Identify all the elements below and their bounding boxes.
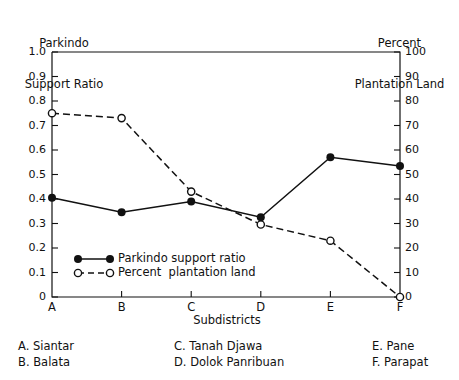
left-tick-label-2: 0.9 bbox=[16, 70, 46, 83]
x-tick-label-b: B bbox=[112, 300, 132, 314]
right-tick-label-3: 80 bbox=[405, 94, 439, 107]
x-tick-label-e: E bbox=[320, 300, 340, 314]
legend-marker-parkindo bbox=[74, 255, 114, 263]
x-tick-label-a: A bbox=[42, 300, 62, 314]
left-axis-ticks bbox=[52, 52, 58, 297]
right-tick-label-6: 50 bbox=[405, 168, 439, 181]
left-tick-label-8: 0.3 bbox=[16, 217, 46, 230]
right-tick-label-11: 0 bbox=[405, 290, 439, 303]
legend-marker-plantation bbox=[74, 269, 113, 276]
x-tick-label-f: F bbox=[390, 300, 410, 314]
left-tick-label-6: 0.5 bbox=[16, 168, 46, 181]
left-tick-label-10: 0.1 bbox=[16, 266, 46, 279]
x-axis-ticks bbox=[122, 291, 331, 297]
left-tick-label-5: 0.6 bbox=[16, 143, 46, 156]
footnote-d: D. Dolok Panribuan bbox=[174, 356, 284, 370]
right-tick-label-8: 30 bbox=[405, 217, 439, 230]
legend-label-parkindo: Parkindo support ratio bbox=[118, 252, 246, 266]
right-tick-label-9: 20 bbox=[405, 241, 439, 254]
right-tick-label-7: 40 bbox=[405, 192, 439, 205]
left-tick-label-7: 0.4 bbox=[16, 192, 46, 205]
legend-label-plantation: Percent plantation land bbox=[118, 266, 255, 280]
right-tick-label-10: 10 bbox=[405, 266, 439, 279]
footnote-a: A. Siantar bbox=[18, 340, 74, 354]
footnote-b: B. Balata bbox=[18, 356, 70, 370]
x-axis-title: Subdistricts bbox=[152, 314, 302, 328]
left-tick-label-9: 0.2 bbox=[16, 241, 46, 254]
footnote-e: E. Pane bbox=[372, 340, 414, 354]
chart-figure: Parkindo Support Ratio Percent Plantatio… bbox=[0, 0, 459, 380]
right-tick-label-5: 60 bbox=[405, 143, 439, 156]
x-tick-label-c: C bbox=[181, 300, 201, 314]
right-tick-label-1: 100 bbox=[405, 45, 439, 58]
right-tick-label-2: 90 bbox=[405, 70, 439, 83]
left-tick-label-1: 1.0 bbox=[16, 45, 46, 58]
left-tick-label-3: 0.8 bbox=[16, 94, 46, 107]
left-tick-label-4: 0.7 bbox=[16, 119, 46, 132]
right-tick-label-4: 70 bbox=[405, 119, 439, 132]
footnote-c: C. Tanah Djawa bbox=[174, 340, 262, 354]
right-axis-ticks bbox=[394, 52, 400, 297]
footnote-f: F. Parapat bbox=[372, 356, 428, 370]
x-tick-label-d: D bbox=[251, 300, 271, 314]
series-parkindo-support-ratio-markers bbox=[48, 153, 404, 221]
